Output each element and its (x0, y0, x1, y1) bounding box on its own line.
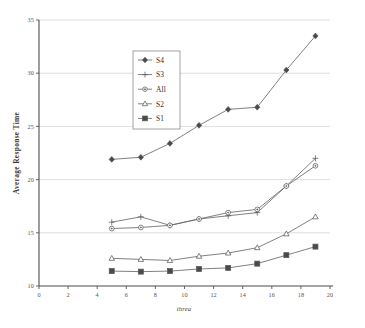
x-tick-label: 0 (37, 291, 40, 298)
x-tick-label: 8 (154, 291, 157, 298)
y-tick-label: 10 (28, 282, 34, 289)
x-tick-label: 14 (240, 291, 246, 298)
line-chart: 101520253035 02468101214161820 S4S3AllS2… (0, 0, 365, 328)
y-tick-label: 35 (28, 16, 34, 23)
tick-marks (36, 20, 330, 289)
y-tick-label: 30 (28, 69, 34, 76)
legend-label: All (156, 85, 166, 94)
grid-lines (39, 20, 330, 233)
series-s3 (109, 155, 319, 228)
y-tick-label: 15 (28, 229, 34, 236)
x-tick-label: 6 (125, 291, 128, 298)
legend-label: S4 (156, 56, 164, 65)
y-axis-tick-labels: 101520253035 (28, 16, 34, 289)
x-tick-label: 10 (181, 291, 187, 298)
chart-legend: S4S3AllS2S1 (133, 51, 180, 129)
x-tick-label: 18 (298, 291, 304, 298)
x-tick-label: 20 (327, 291, 333, 298)
y-axis-title: Average Response Time (12, 111, 21, 194)
series-all (109, 163, 317, 231)
x-tick-label: 16 (269, 291, 275, 298)
axes (39, 20, 333, 286)
x-axis-tick-labels: 02468101214161820 (37, 291, 333, 298)
x-tick-label: 2 (66, 291, 69, 298)
legend-label: S1 (156, 114, 164, 123)
y-tick-label: 25 (28, 123, 34, 130)
legend-label: S3 (156, 70, 164, 79)
x-tick-label: 4 (96, 291, 99, 298)
x-tick-label: 12 (210, 291, 216, 298)
y-tick-label: 20 (28, 176, 34, 183)
x-axis-title: threa (177, 305, 192, 312)
legend-label: S2 (156, 100, 164, 109)
chart-container: 101520253035 02468101214161820 S4S3AllS2… (0, 0, 365, 328)
